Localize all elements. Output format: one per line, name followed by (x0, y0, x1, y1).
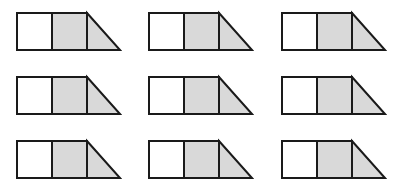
unshaded-square (282, 13, 317, 50)
shaded-square (52, 13, 87, 50)
diagram-canvas (0, 0, 407, 190)
shaded-square (184, 141, 219, 178)
shape-grid (0, 0, 407, 190)
shaded-triangle (87, 77, 120, 114)
composite-shape (282, 141, 385, 178)
shaded-square (317, 77, 352, 114)
shaded-square (184, 13, 219, 50)
shaded-triangle (219, 13, 252, 50)
unshaded-square (149, 141, 184, 178)
shaded-square (317, 13, 352, 50)
unshaded-square (17, 13, 52, 50)
shaded-triangle (87, 13, 120, 50)
unshaded-square (282, 77, 317, 114)
shaded-square (52, 77, 87, 114)
composite-shape (149, 13, 252, 50)
shaded-triangle (352, 13, 385, 50)
unshaded-square (282, 141, 317, 178)
unshaded-square (149, 13, 184, 50)
shaded-triangle (219, 77, 252, 114)
composite-shape (282, 77, 385, 114)
shaded-triangle (352, 77, 385, 114)
composite-shape (149, 77, 252, 114)
shaded-square (52, 141, 87, 178)
shaded-square (317, 141, 352, 178)
composite-shape (17, 13, 120, 50)
unshaded-square (17, 77, 52, 114)
composite-shape (17, 141, 120, 178)
unshaded-square (149, 77, 184, 114)
composite-shape (17, 77, 120, 114)
shaded-triangle (219, 141, 252, 178)
shaded-square (184, 77, 219, 114)
shaded-triangle (87, 141, 120, 178)
composite-shape (149, 141, 252, 178)
unshaded-square (17, 141, 52, 178)
shaded-triangle (352, 141, 385, 178)
composite-shape (282, 13, 385, 50)
